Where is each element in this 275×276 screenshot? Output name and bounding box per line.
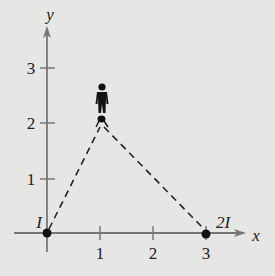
dashed-line-I-to-observer	[49, 127, 100, 229]
dashed-line-observer-to-2I	[104, 127, 204, 229]
label-2I: 2I	[216, 213, 232, 232]
y-tick-label-2: 2	[27, 114, 36, 133]
x-axis-label: x	[251, 226, 260, 245]
point-2I	[202, 230, 211, 239]
label-I: I	[35, 213, 43, 232]
x-tick-label-2: 2	[149, 244, 158, 263]
y-axis-label: y	[44, 5, 54, 24]
coordinate-diagram: 1 2 3 1 2 3 x y I 2I	[0, 0, 275, 276]
point-I	[43, 229, 52, 238]
y-tick-label-1: 1	[27, 170, 36, 189]
person-icon	[96, 83, 109, 127]
x-tick-label-1: 1	[96, 244, 105, 263]
y-tick-label-3: 3	[27, 59, 36, 78]
x-tick-label-3: 3	[202, 244, 211, 263]
diagram-canvas: 1 2 3 1 2 3 x y I 2I	[0, 0, 275, 276]
